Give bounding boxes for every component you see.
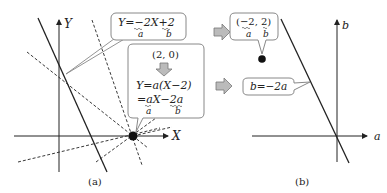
point-text: (−2, 2)	[236, 16, 271, 27]
slope-label-a3: a	[246, 29, 251, 39]
callout-line-equation: Y=−2X+2 a b	[111, 13, 186, 40]
equation-text: Y=−2X+2	[118, 16, 175, 29]
callout-point-minus2-2: (−2, 2) a b	[230, 13, 278, 54]
a-axis-label: a	[374, 130, 381, 143]
equation-text: b=−2a	[250, 80, 287, 92]
slope-label-a2: a	[146, 106, 151, 116]
point-text: (2, 0)	[152, 49, 179, 60]
substituted-equation: Y=a(X−2)	[136, 79, 192, 92]
panel-a: X Y Y=−2X+2 a b (2, 0)	[14, 13, 204, 187]
right-arrow-icon-2	[216, 78, 232, 94]
y-axis-label: Y	[64, 17, 73, 31]
intercept-label-b3: b	[263, 29, 269, 39]
b-axis-label: b	[342, 19, 349, 32]
diagram-canvas: X Y Y=−2X+2 a b (2, 0)	[0, 0, 387, 193]
intercept-label-b2: b	[175, 106, 181, 116]
panel-b-caption: (b)	[295, 176, 309, 187]
point-minus2-2-marker	[258, 55, 266, 63]
callout-point-substitution: (2, 0) Y=a(X−2) =aX−2a a b	[128, 44, 204, 132]
slope-label-a: a	[138, 29, 143, 39]
x-axis-label: X	[171, 129, 181, 143]
callout-line-leader	[66, 36, 126, 74]
panel-a-caption: (a)	[88, 176, 102, 187]
point-2-0-marker	[129, 132, 138, 141]
callout-line-b-eq-neg2a: b=−2a	[243, 78, 310, 95]
expanded-equation: =aX−2a	[137, 93, 183, 106]
right-arrow-icon-1	[214, 24, 230, 40]
intercept-label-b: b	[166, 29, 172, 39]
panel-b: a b (−2, 2) a b b=−2a (b)	[230, 13, 381, 187]
